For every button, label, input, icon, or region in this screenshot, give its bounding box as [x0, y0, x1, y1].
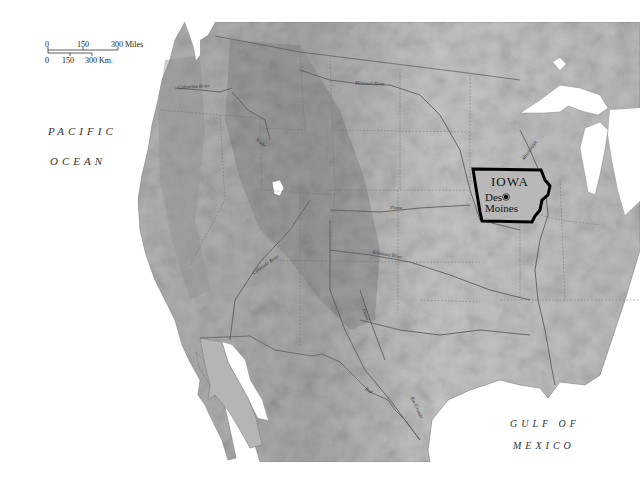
scale-miles-0: 0	[45, 40, 49, 49]
des-moines-label: Des Moines	[485, 192, 525, 214]
scale-km-0: 0	[45, 56, 49, 65]
scale-miles-300: 300 Miles	[111, 40, 143, 49]
iowa-label: IOWA	[491, 174, 529, 190]
scale-miles-150: 150	[77, 40, 89, 49]
platte-river-label: Platte	[390, 205, 402, 210]
gulf-of-mexico-label-line2: MEXICO	[513, 440, 575, 451]
pacific-ocean-label-line1: PACIFIC	[48, 125, 117, 137]
scale-km-300: 300 Km.	[85, 56, 113, 65]
missouri-river-label: Missouri River	[355, 80, 385, 86]
pacific-ocean-label-line2: OCEAN	[50, 155, 106, 167]
relief-map	[0, 0, 641, 490]
gulf-of-mexico-label-line1: GULF OF	[510, 418, 580, 429]
scale-km-150: 150	[62, 56, 74, 65]
